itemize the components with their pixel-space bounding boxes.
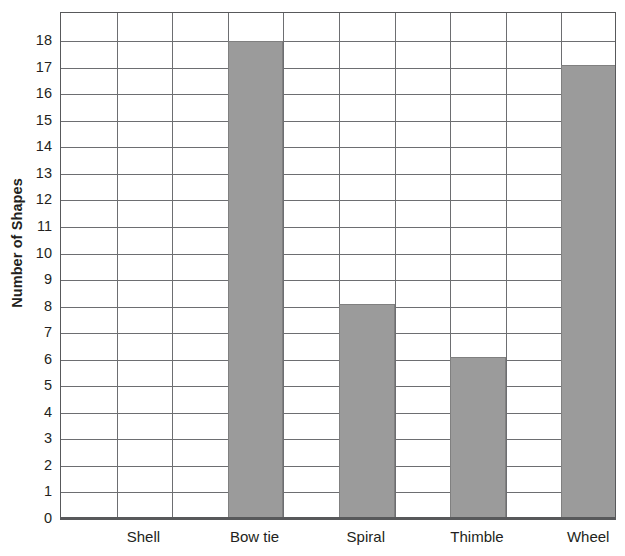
gridline-horizontal [61,174,615,175]
y-tick-label: 18 [22,33,52,48]
gridline-horizontal [61,280,615,281]
gridline-horizontal [61,94,615,95]
gridline-horizontal [61,254,615,255]
gridline-horizontal [61,227,615,228]
y-tick-label: 16 [22,86,52,101]
y-axis-tick-labels: 0123456789101112131415161718 [22,40,52,518]
y-tick-label: 10 [22,245,52,260]
bar [339,304,395,518]
y-tick-label: 0 [22,511,52,526]
y-tick-label: 5 [22,378,52,393]
gridline-horizontal [61,360,615,361]
x-tick-label: Spiral [347,526,385,548]
y-tick-label: 15 [22,113,52,128]
y-tick-label: 3 [22,431,52,446]
y-tick-label: 8 [22,298,52,313]
gridline-vertical [395,13,396,517]
gridline-vertical [506,13,507,517]
y-tick-label: 4 [22,405,52,420]
gridline-vertical [172,13,173,517]
x-tick-label: Bow tie [230,526,279,548]
plot-area [60,12,616,518]
y-tick-label: 1 [22,484,52,499]
y-tick-label: 9 [22,272,52,287]
gridline-horizontal [61,307,615,308]
gridline-horizontal [61,413,615,414]
x-tick-label: Shell [127,526,160,548]
y-tick-label: 14 [22,139,52,154]
x-axis-line [60,518,616,520]
bar [561,65,616,518]
gridline-horizontal [61,68,615,69]
bar-chart: Number of Shapes 01234567891011121314151… [0,0,625,556]
y-tick-label: 13 [22,166,52,181]
y-tick-label: 17 [22,59,52,74]
x-tick-label: Wheel [567,526,610,548]
gridline-horizontal [61,200,615,201]
y-tick-label: 6 [22,351,52,366]
gridline-vertical [283,13,284,517]
gridline-horizontal [61,333,615,334]
chart-title [0,0,625,6]
gridline-vertical [117,13,118,517]
y-tick-label: 12 [22,192,52,207]
y-tick-label: 11 [22,219,52,234]
x-axis-tick-labels: ShellBow tieSpiralThimbleWheel [60,526,616,554]
bar [228,41,284,518]
gridline-horizontal [61,147,615,148]
y-tick-label: 2 [22,458,52,473]
gridline-horizontal [61,466,615,467]
bar [450,357,506,518]
gridline-horizontal [61,386,615,387]
y-tick-label: 7 [22,325,52,340]
x-tick-label: Thimble [450,526,503,548]
gridline-horizontal [61,41,615,42]
gridline-horizontal [61,492,615,493]
gridline-horizontal [61,439,615,440]
gridline-horizontal [61,121,615,122]
